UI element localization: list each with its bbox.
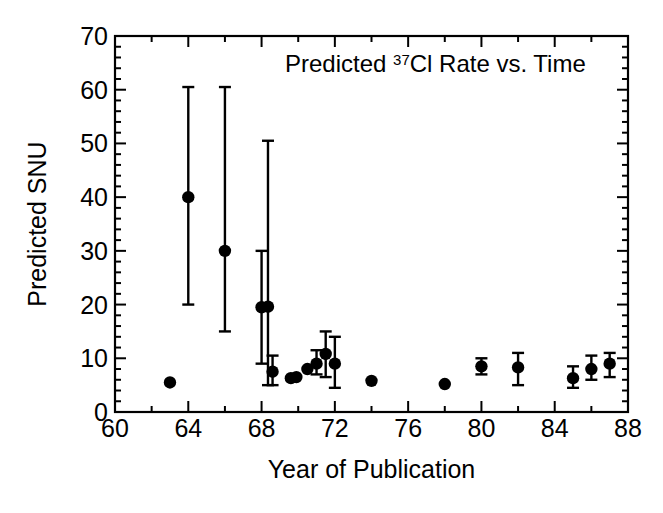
data-point-marker — [182, 191, 194, 203]
data-point-group — [290, 371, 302, 383]
axes-border — [115, 36, 628, 412]
data-point-marker — [567, 372, 579, 384]
data-point-marker — [262, 301, 274, 313]
data-point-marker — [290, 371, 302, 383]
data-point-group — [365, 375, 377, 387]
data-point-marker — [329, 357, 341, 369]
axes-frame — [115, 36, 628, 412]
data-point-marker — [219, 245, 231, 257]
data-point-marker — [266, 366, 278, 378]
data-point-marker — [439, 378, 451, 390]
axis-tick-marks — [115, 36, 628, 412]
x-tick-label: 84 — [541, 416, 569, 441]
data-point-group — [219, 87, 231, 331]
data-point-marker — [164, 376, 176, 388]
x-axis-label: Year of Publication — [115, 455, 628, 484]
data-point-group — [475, 358, 487, 374]
data-point-group — [567, 366, 579, 387]
data-point-group — [262, 141, 274, 385]
x-tick-label: 80 — [468, 416, 496, 441]
data-point-marker — [319, 348, 331, 360]
x-tick-label: 72 — [321, 416, 349, 441]
x-tick-label: 64 — [174, 416, 202, 441]
data-point-group — [603, 353, 615, 377]
data-point-marker — [603, 357, 615, 369]
x-tick-label: 76 — [394, 416, 422, 441]
plot-title-prefix: Predicted — [285, 50, 393, 77]
plot-title: Predicted 37Cl Rate vs. Time — [285, 52, 586, 76]
data-point-group — [439, 378, 451, 390]
plot-title-superscript: 37 — [393, 51, 410, 68]
data-point-marker — [365, 375, 377, 387]
x-tick-label: 60 — [101, 416, 129, 441]
data-point-marker — [512, 361, 524, 373]
data-point-marker — [310, 357, 322, 369]
data-point-marker — [475, 360, 487, 372]
plot-title-suffix: Cl Rate vs. Time — [410, 50, 586, 77]
data-point-marker — [585, 363, 597, 375]
data-point-group — [329, 337, 341, 388]
data-point-group — [164, 376, 176, 388]
chart-figure: Predicted SNU 010203040506070 6064687276… — [0, 0, 663, 513]
data-point-group — [512, 353, 524, 385]
x-tick-label: 68 — [248, 416, 276, 441]
x-tick-label: 88 — [614, 416, 642, 441]
data-point-group — [182, 87, 194, 305]
data-point-group — [319, 331, 331, 377]
data-series-points — [164, 87, 616, 390]
data-point-group — [585, 356, 597, 380]
